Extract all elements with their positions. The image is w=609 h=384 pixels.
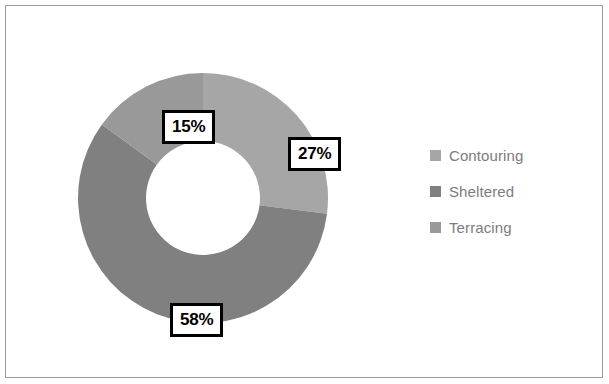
chart-screenshot: 15% 27% 58% Contouring Sheltered Terraci… xyxy=(0,0,609,384)
data-label-terracing: 15% xyxy=(162,110,215,144)
legend-swatch-icon-terracing xyxy=(430,222,441,233)
legend-label-terracing: Terracing xyxy=(449,219,512,236)
data-label-contouring: 27% xyxy=(288,137,341,171)
legend-swatch-icon-contouring xyxy=(430,150,441,161)
legend-item-sheltered[interactable]: Sheltered xyxy=(430,173,590,209)
legend-item-terracing[interactable]: Terracing xyxy=(430,209,590,245)
legend-item-contouring[interactable]: Contouring xyxy=(430,137,590,173)
data-label-sheltered: 58% xyxy=(170,303,223,337)
legend-label-contouring: Contouring xyxy=(449,147,523,164)
legend-label-sheltered: Sheltered xyxy=(449,183,514,200)
chart-legend: Contouring Sheltered Terracing xyxy=(430,137,590,245)
donut-chart: 15% 27% 58% xyxy=(26,26,406,370)
legend-swatch-icon-sheltered xyxy=(430,186,441,197)
chart-frame: 15% 27% 58% Contouring Sheltered Terraci… xyxy=(5,5,603,378)
